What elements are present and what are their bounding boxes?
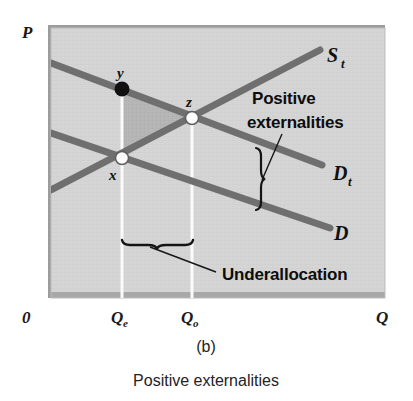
curve-label-dt-sub: t — [348, 174, 352, 189]
tick-qo-base: Q — [181, 308, 193, 327]
curve-label-st-sub: t — [341, 56, 345, 71]
point-label-x: x — [108, 167, 117, 183]
tick-qe-base: Q — [111, 308, 123, 327]
figure-container: y x z P Q 0 Q e Q o S t D t D Positive — [0, 0, 413, 401]
curve-label-d-base: D — [333, 222, 348, 244]
point-label-y: y — [115, 65, 124, 81]
point-z-marker[interactable] — [186, 112, 199, 125]
tick-qo-sub: o — [193, 317, 199, 329]
annotation-externalities-line2: externalities — [247, 113, 344, 132]
tick-qe-sub: e — [123, 317, 128, 329]
axis-label-p: P — [21, 23, 33, 42]
axis-origin-label: 0 — [22, 308, 31, 327]
annotation-underallocation-label: Underallocation — [222, 265, 347, 284]
curve-label-d: D — [333, 222, 348, 244]
tick-qe: Q e — [111, 308, 128, 329]
point-x-marker[interactable] — [116, 152, 129, 165]
figure-caption: Positive externalities — [133, 372, 279, 389]
curve-label-dt-base: D — [332, 162, 347, 184]
annotation-externalities-line1: Positive — [252, 89, 316, 108]
positive-externalities-diagram: y x z P Q 0 Q e Q o S t D t D Positive — [0, 0, 413, 401]
point-label-z: z — [185, 94, 192, 110]
curve-label-st-base: S — [327, 44, 338, 66]
axis-label-q: Q — [376, 308, 388, 327]
plot-shadow-bottom — [51, 292, 385, 298]
point-y-marker[interactable] — [115, 82, 130, 97]
tick-qo: Q o — [181, 308, 199, 329]
panel-letter: (b) — [196, 338, 216, 355]
